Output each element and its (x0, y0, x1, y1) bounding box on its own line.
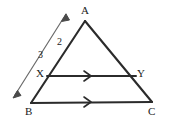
measure-label-segment-ax: 2 (57, 37, 62, 47)
triangle-figure (0, 0, 171, 120)
vertex-label-x: X (36, 68, 44, 79)
measure-label-external-arrow: 3 (38, 50, 43, 60)
vertex-label-b: B (25, 106, 32, 117)
vertex-label-c: C (148, 106, 155, 117)
vertex-label-y: Y (137, 68, 145, 79)
vertex-label-a: A (81, 5, 89, 16)
geometry-diagram: A B C X Y 2 3 (0, 0, 171, 120)
